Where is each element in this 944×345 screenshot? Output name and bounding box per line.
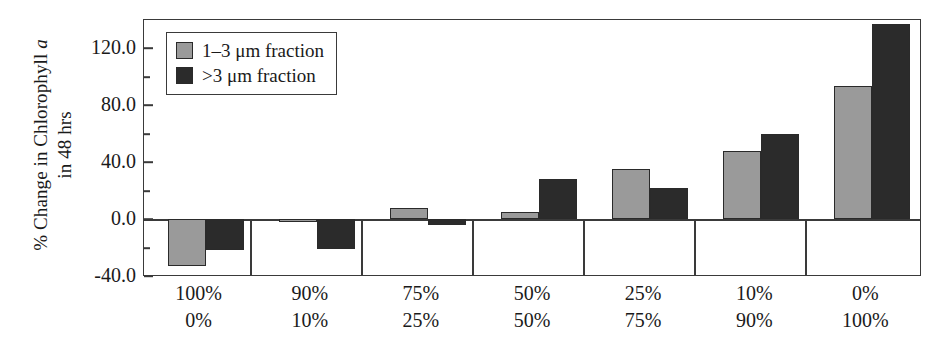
- bar-gray-group-3: [390, 208, 428, 219]
- zero-baseline: [144, 219, 920, 221]
- bar-black-group-2: [317, 219, 355, 249]
- legend-swatch-black-icon: [176, 67, 193, 84]
- x-label-bottom-3: 25%: [365, 307, 476, 334]
- y-tick-major-80: [144, 104, 153, 106]
- y-tick-label-neg40: -40.0: [60, 265, 136, 285]
- bar-gray-group-4: [501, 212, 539, 219]
- y-tick-minor-neg20: [144, 247, 150, 249]
- group-separator-5: [694, 220, 696, 275]
- x-label-bottom-4: 50%: [476, 307, 587, 334]
- bar-gray-group-6: [723, 151, 761, 219]
- x-label-top-2: 90%: [291, 282, 328, 304]
- x-label-bottom-1: 0%: [143, 307, 254, 334]
- plot-area: 1–3 μm fraction >3 μm fraction: [143, 19, 921, 276]
- chart-figure: % Change in Chlorophyll a in 48 hrs 120.…: [0, 0, 944, 345]
- x-label-bottom-7: 100%: [810, 307, 921, 334]
- x-label-bottom-2: 10%: [254, 307, 365, 334]
- x-axis-group-label-4: 50%50%: [476, 280, 587, 334]
- bar-black-group-1: [206, 219, 244, 250]
- x-label-top-6: 10%: [736, 282, 773, 304]
- x-label-top-1: 100%: [175, 282, 222, 304]
- y-axis-title-italic-a: a: [30, 39, 51, 49]
- y-tick-minor-60: [144, 133, 150, 135]
- x-label-top-3: 75%: [403, 282, 440, 304]
- y-tick-major-neg40: [144, 275, 153, 277]
- x-axis-labels: 100%0%90%10%75%25%50%50%25%75%10%90%0%10…: [143, 280, 921, 342]
- y-tick-major-120: [144, 47, 153, 49]
- bar-gray-group-5: [612, 169, 650, 219]
- y-tick-label-40: 40.0: [60, 151, 136, 171]
- bar-black-group-4: [539, 179, 577, 219]
- x-label-bottom-5: 75%: [588, 307, 699, 334]
- bar-gray-group-1: [168, 219, 206, 266]
- x-label-top-5: 25%: [625, 282, 662, 304]
- x-axis-group-label-2: 90%10%: [254, 280, 365, 334]
- y-tick-minor-20: [144, 190, 150, 192]
- y-tick-label-0: 0.0: [60, 208, 136, 228]
- bar-gray-group-7: [834, 86, 872, 219]
- legend-item-1-3um: 1–3 μm fraction: [176, 38, 324, 63]
- bar-black-group-3: [428, 219, 466, 225]
- x-axis-group-label-3: 75%25%: [365, 280, 476, 334]
- group-separator-4: [583, 220, 585, 275]
- y-axis-title-line1: % Change in Chlorophyll: [30, 49, 51, 251]
- group-separator-6: [805, 220, 807, 275]
- group-separator-2: [361, 220, 363, 275]
- x-label-top-4: 50%: [514, 282, 551, 304]
- x-axis-group-label-5: 25%75%: [588, 280, 699, 334]
- legend-label-1-3um: 1–3 μm fraction: [202, 41, 324, 60]
- y-tick-major-40: [144, 161, 153, 163]
- y-tick-label-80: 80.0: [60, 94, 136, 114]
- legend-swatch-gray-icon: [176, 42, 193, 59]
- x-axis-group-label-7: 0%100%: [810, 280, 921, 334]
- x-label-top-7: 0%: [852, 282, 879, 304]
- bar-black-group-7: [872, 24, 910, 219]
- x-axis-group-label-1: 100%0%: [143, 280, 254, 334]
- legend-item-gt3um: >3 μm fraction: [176, 63, 324, 88]
- legend: 1–3 μm fraction >3 μm fraction: [166, 32, 337, 95]
- y-tick-label-120: 120.0: [60, 37, 136, 57]
- group-separator-3: [472, 220, 474, 275]
- x-label-bottom-6: 90%: [699, 307, 810, 334]
- y-axis-tick-labels: 120.0 80.0 40.0 0.0 -40.0: [60, 0, 136, 345]
- bar-gray-group-2: [279, 219, 317, 222]
- legend-label-gt3um: >3 μm fraction: [202, 66, 316, 85]
- bar-black-group-6: [761, 134, 799, 220]
- x-axis-group-label-6: 10%90%: [699, 280, 810, 334]
- y-tick-minor-100: [144, 76, 150, 78]
- group-separator-1: [250, 220, 252, 275]
- bar-black-group-5: [650, 188, 688, 219]
